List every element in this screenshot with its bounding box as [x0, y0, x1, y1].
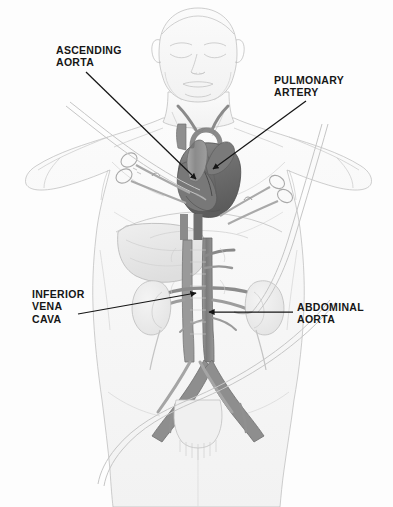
- label-ascending-aorta: ASCENDING AORTA: [56, 44, 122, 69]
- label-abdominal-aorta: ABDOMINAL AORTA: [297, 301, 364, 326]
- head: [159, 8, 237, 102]
- label-inferior-vena-cava: INFERIOR VENA CAVA: [32, 288, 85, 325]
- label-pulmonary-artery: PULMONARY ARTERY: [274, 74, 344, 99]
- illustration-canvas: ASCENDING AORTA PULMONARY ARTERY INFERIO…: [0, 0, 393, 507]
- superior-vena-cava: [177, 124, 187, 150]
